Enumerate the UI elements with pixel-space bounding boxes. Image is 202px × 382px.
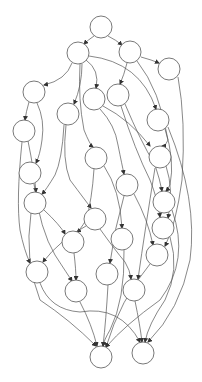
graph-diagram [0, 0, 202, 382]
node-n25 [90, 346, 112, 368]
node-n17 [152, 217, 174, 239]
node-n14 [24, 192, 46, 214]
edge-n13-n20 [134, 194, 153, 245]
edge-n0-n2 [108, 36, 122, 45]
edge-n23-n25 [80, 302, 97, 346]
edge-n22-n25 [103, 285, 108, 346]
node-n11 [149, 146, 171, 168]
node-n13 [116, 174, 138, 196]
node-n16 [84, 208, 106, 230]
node-n6 [107, 84, 129, 106]
node-n5 [83, 88, 105, 110]
node-n8 [147, 109, 169, 131]
edge-n10-n18 [104, 166, 122, 228]
edge-n1-n7 [74, 64, 82, 104]
node-n2 [119, 41, 141, 63]
node-n15 [153, 191, 175, 213]
node-n21 [26, 261, 48, 283]
edge-n1-n5 [86, 60, 97, 88]
node-n12 [19, 162, 41, 184]
node-n19 [62, 231, 84, 253]
node-n24 [123, 279, 145, 301]
edge-n14-n19 [44, 210, 65, 234]
node-n23 [65, 280, 87, 302]
node-n0 [90, 16, 112, 38]
edge-n1-n4 [44, 63, 72, 85]
node-n22 [96, 263, 118, 285]
edge-n19-n23 [74, 253, 76, 280]
node-n3 [158, 58, 180, 80]
node-n9 [13, 120, 35, 142]
edge-n5-n11 [103, 106, 150, 146]
node-n7 [57, 103, 79, 125]
edge-n4-n9 [25, 102, 29, 120]
node-n4 [23, 81, 45, 103]
node-n10 [85, 147, 107, 169]
node-n20 [146, 244, 168, 266]
edge-n2-n6 [120, 63, 127, 84]
node-n1 [67, 42, 89, 64]
node-n26 [132, 342, 154, 364]
edge-n0-n1 [84, 36, 94, 44]
node-group [13, 16, 180, 368]
edge-n7-n14 [42, 125, 64, 194]
edge-n4-n12 [36, 103, 43, 163]
node-n18 [111, 228, 133, 250]
edge-n2-n3 [141, 57, 159, 63]
